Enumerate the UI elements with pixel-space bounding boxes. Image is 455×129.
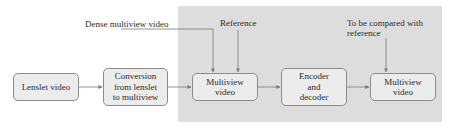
diagram-canvas: Lenslet video Conversion from lenslet to… [0,0,455,129]
node-multiview-video-input: Multiview video [192,73,258,101]
node-conversion: Conversion from lenslet to multiview [103,68,168,106]
label-dense-multiview-video: Dense multiview video [85,19,168,29]
node-multiview-video-output: Multiview video [370,73,436,101]
label-reference: Reference [220,18,256,28]
label-compare-line1: To be compared with [347,18,423,28]
arrow-dense-to-multiview [121,29,213,72]
node-lenslet-video: Lenslet video [13,73,79,101]
node-encoder-decoder: Encoder and decoder [281,68,347,106]
label-compare-line2: reference [347,28,380,38]
